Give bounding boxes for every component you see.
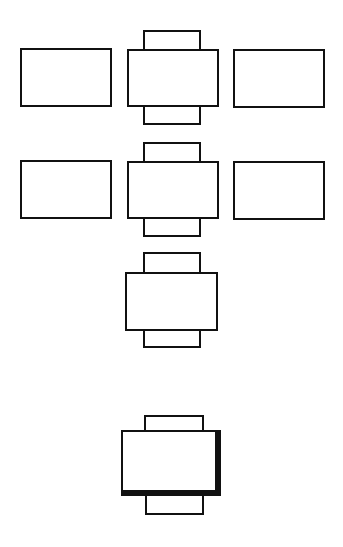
component-body — [125, 272, 218, 331]
component-top-tab — [143, 30, 201, 51]
component-body — [121, 430, 221, 496]
component-bottom-tab — [143, 105, 201, 125]
component-top-tab — [143, 142, 201, 163]
component-top-tab — [143, 252, 201, 274]
plain-rectangle — [20, 48, 112, 107]
plain-rectangle — [20, 160, 112, 219]
plain-rectangle — [233, 161, 325, 220]
plain-rectangle — [233, 49, 325, 108]
component-body — [127, 49, 219, 107]
component-bottom-tab — [143, 329, 201, 348]
component-bottom-tab — [145, 494, 204, 515]
component-body — [127, 161, 219, 219]
component-bottom-tab — [143, 217, 201, 237]
